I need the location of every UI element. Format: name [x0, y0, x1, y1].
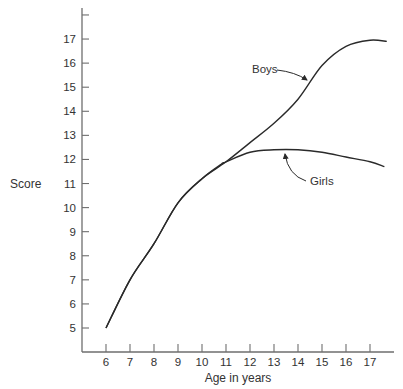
- y-tick-label: 17: [63, 33, 76, 45]
- y-tick-label: 7: [70, 274, 76, 286]
- y-tick-label: 12: [63, 153, 76, 165]
- x-tick-label: 7: [127, 356, 133, 368]
- y-axis-ticks: 567891011121314151617: [63, 15, 89, 334]
- x-tick-label: 6: [103, 356, 109, 368]
- series-boys-line: [106, 40, 387, 328]
- y-tick-label: 15: [63, 81, 76, 93]
- y-tick-label: 11: [64, 178, 76, 190]
- axes: [82, 8, 394, 352]
- y-tick-label: 10: [63, 202, 76, 214]
- annotations: BoysGirls: [252, 63, 334, 187]
- y-tick-label: 16: [63, 57, 76, 69]
- x-tick-label: 8: [151, 356, 157, 368]
- growth-chart: 567891011121314151617 678910111213141516…: [0, 0, 403, 389]
- x-axis-ticks: 67891011121314151617: [103, 344, 377, 368]
- data-series: [106, 40, 387, 328]
- boys-label: Boys: [252, 63, 278, 75]
- y-tick-label: 6: [70, 298, 76, 310]
- y-tick-label: 9: [70, 226, 76, 238]
- girls-arrow-icon: [285, 154, 306, 181]
- x-tick-label: 16: [340, 356, 353, 368]
- y-axis-label: Score: [10, 177, 42, 191]
- y-tick-label: 14: [63, 105, 76, 117]
- y-tick-label: 8: [70, 250, 76, 262]
- y-tick-label: 5: [70, 322, 76, 334]
- x-tick-label: 13: [268, 356, 281, 368]
- series-girls-line: [106, 150, 384, 329]
- x-tick-label: 10: [196, 356, 209, 368]
- girls-label: Girls: [310, 175, 334, 187]
- x-tick-label: 15: [316, 356, 329, 368]
- boys-arrow-icon: [277, 70, 307, 80]
- x-tick-label: 9: [175, 356, 181, 368]
- y-tick-label: 13: [63, 129, 76, 141]
- chart-canvas: 567891011121314151617 678910111213141516…: [0, 0, 403, 389]
- x-tick-label: 17: [364, 356, 377, 368]
- x-tick-label: 14: [292, 356, 305, 368]
- x-axis-label: Age in years: [205, 371, 272, 385]
- x-tick-label: 12: [244, 356, 257, 368]
- x-tick-label: 11: [220, 356, 232, 368]
